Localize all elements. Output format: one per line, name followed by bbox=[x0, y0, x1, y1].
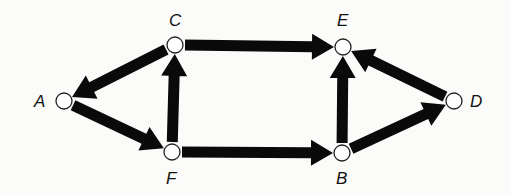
node-label-b: B bbox=[336, 170, 347, 187]
edge-b-to-e-arrow-icon bbox=[330, 56, 356, 143]
node-c-circle-icon bbox=[167, 37, 183, 53]
edge-c-to-a-arrow-icon bbox=[72, 45, 169, 99]
node-label-e: E bbox=[337, 12, 348, 29]
node-e-circle-icon bbox=[335, 39, 351, 55]
node-d-circle-icon bbox=[446, 93, 462, 109]
node-label-d: D bbox=[470, 93, 482, 110]
edge-b-to-d-arrow-icon bbox=[349, 102, 446, 154]
node-f-circle-icon bbox=[164, 144, 180, 160]
graph-svg bbox=[0, 0, 510, 195]
node-label-f: F bbox=[166, 170, 176, 187]
edge-f-to-b-arrow-icon bbox=[182, 140, 333, 166]
node-b-circle-icon bbox=[334, 145, 350, 161]
node-label-c: C bbox=[169, 12, 181, 29]
graph-canvas: ACFEBD bbox=[0, 0, 510, 195]
edge-a-to-f-arrow-icon bbox=[71, 100, 164, 150]
edge-d-to-e-arrow-icon bbox=[351, 49, 447, 102]
edge-f-to-c-arrow-icon bbox=[161, 54, 187, 142]
edge-c-to-e-arrow-icon bbox=[185, 34, 334, 60]
node-a-circle-icon bbox=[56, 93, 72, 109]
node-label-a: A bbox=[34, 93, 45, 110]
